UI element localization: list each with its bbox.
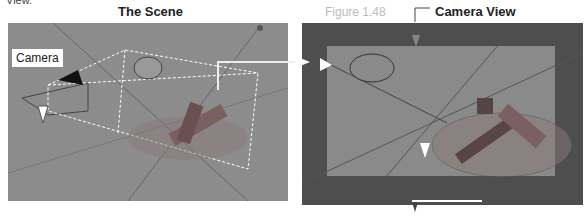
- figure-label: Figure 1.48: [325, 5, 386, 19]
- camera-drawing: [302, 23, 583, 205]
- camera-view-title: Camera View: [435, 4, 516, 19]
- scene-title: The Scene: [118, 4, 183, 19]
- camera-view-viewport: [302, 23, 583, 205]
- camera-callout: Camera: [12, 49, 63, 67]
- scene-viewport: Camera: [8, 23, 288, 201]
- partial-header-text: View.: [6, 0, 32, 6]
